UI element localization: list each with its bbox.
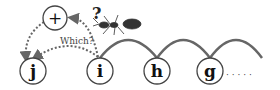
question-mark: ? [92, 4, 101, 23]
node-g: g [197, 58, 223, 84]
node-plus: + [43, 6, 67, 30]
linked-chain-diagram: + j i h g ? Which? · · · · · [0, 0, 280, 90]
svg-text:j: j [28, 61, 36, 81]
dotted-arrow-i-j [36, 46, 98, 57]
svg-text:i: i [97, 61, 104, 81]
arc-h-g [157, 40, 210, 58]
ellipsis: · · · · · [226, 70, 252, 80]
which-label: Which? [60, 36, 94, 46]
arc-g-next [210, 40, 262, 58]
svg-text:h: h [151, 61, 163, 81]
dotted-arrow-plus-j [26, 22, 44, 57]
svg-text:g: g [204, 61, 216, 81]
node-h: h [144, 58, 170, 84]
node-i: i [87, 58, 113, 84]
svg-text:+: + [48, 8, 62, 28]
arc-i-h [100, 40, 157, 58]
node-j: j [20, 58, 46, 84]
